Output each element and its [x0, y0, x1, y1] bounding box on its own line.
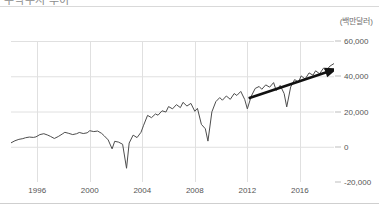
- line-chart-svg: [11, 41, 334, 182]
- x-axis-tick-label: 1996: [28, 186, 46, 195]
- horizontal-gridlines: [11, 42, 334, 183]
- y-axis-tick-label: -20,000: [344, 178, 371, 187]
- y-axis-tick-label: 40,000: [344, 72, 368, 81]
- y-axis-unit-label: (백만달러): [340, 15, 373, 26]
- x-axis-tick-label: 2008: [186, 186, 204, 195]
- x-axis-tick-label: 2004: [133, 186, 151, 195]
- bottom-divider: [0, 203, 379, 204]
- chart-page: 무역수지 추이 (백만달러) 60,00040,00020,0000-20,00…: [0, 0, 379, 210]
- y-axis-tick-label: 20,000: [344, 107, 368, 116]
- x-axis-tick-label: 2000: [81, 186, 99, 195]
- y-axis-tick-mark: [335, 41, 341, 42]
- series-line-trade-balance: [11, 64, 334, 169]
- x-axis-tick-label: 2012: [238, 186, 256, 195]
- y-axis-tick-mark: [335, 76, 341, 77]
- plot-area: [11, 41, 334, 182]
- y-axis-tick-label: 0: [344, 142, 348, 151]
- y-axis-tick-label: 60,000: [344, 37, 368, 46]
- y-axis-tick-mark: [335, 182, 341, 183]
- x-axis-tick-label: 2016: [291, 186, 309, 195]
- y-axis-tick-mark: [335, 111, 341, 112]
- title-divider: [0, 6, 379, 7]
- y-axis-tick-mark: [335, 146, 341, 147]
